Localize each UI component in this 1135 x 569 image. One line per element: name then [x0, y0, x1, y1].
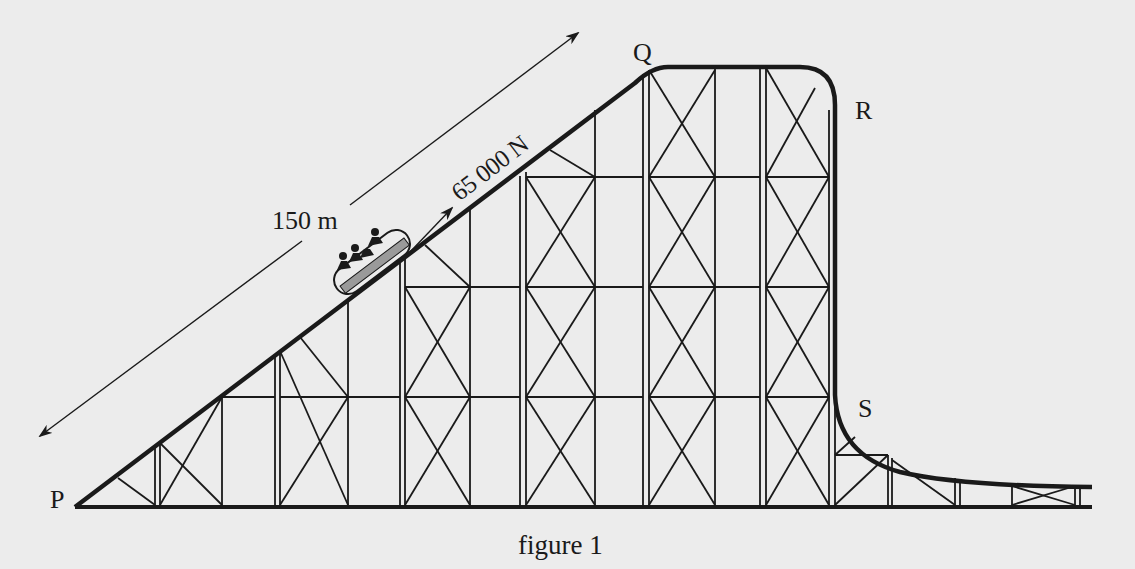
point-label-s: S: [858, 396, 872, 422]
coaster-diagram: [0, 0, 1135, 569]
distance-arrow-lower: [40, 241, 302, 436]
figure-caption: figure 1: [518, 532, 603, 559]
coaster-car: [328, 224, 415, 299]
support-structure: [118, 66, 1080, 507]
point-label-p: P: [50, 487, 64, 513]
roller-coaster-figure: P Q R S 150 m 65 000 N figure 1: [0, 0, 1135, 569]
force-arrow: [410, 208, 452, 252]
distance-label: 150 m: [272, 208, 338, 234]
point-label-q: Q: [633, 40, 652, 66]
point-label-r: R: [855, 98, 872, 124]
